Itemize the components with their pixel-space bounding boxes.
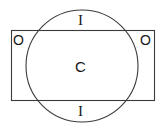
region-label-inside-bottom: I	[78, 104, 83, 119]
region-label-outside-left: O	[13, 33, 24, 47]
region-label-common-center: C	[75, 59, 86, 74]
region-label-inside-top: I	[78, 13, 83, 28]
region-label-outside-right: O	[140, 33, 151, 47]
rectangle-circle-overlap-diagram: O O I I C	[0, 0, 163, 130]
